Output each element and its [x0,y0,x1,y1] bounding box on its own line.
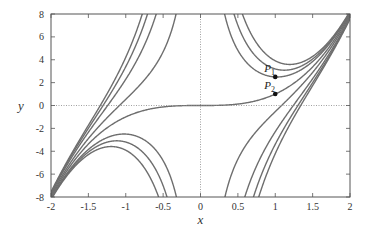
x-tick-label: -1.5 [80,201,96,212]
solution-curve [201,0,350,64]
y-axis-label: y [16,98,24,113]
x-tick-label: 0 [198,201,203,212]
x-tick-label: 1 [273,201,278,212]
solution-curve [51,0,200,192]
x-tick-label: -2 [47,201,55,212]
solution-curve [51,147,200,237]
y-tick-label: 8 [39,9,44,20]
y-tick-label: 0 [39,100,44,111]
y-tick-label: 2 [39,77,44,88]
solution-curves-chart: -2-1.5-1-0.500.511.52 -8-6-4-202468 x y … [0,0,366,237]
y-tick-label: -4 [36,146,44,157]
x-tick-label: -1 [122,201,130,212]
x-tick-label: 2 [348,201,353,212]
x-tick-label: 0.5 [232,201,245,212]
point-label-p2: P2 [263,79,275,94]
solution-curve [201,0,350,77]
y-tick-label: -2 [36,123,44,134]
y-tick-label: -6 [36,169,44,180]
y-tick-label: 6 [39,31,44,42]
y-tick-label: -8 [36,192,44,203]
x-tick-label: 1.5 [306,201,319,212]
x-axis-label: x [197,212,204,227]
x-tick-label: -0.5 [155,201,171,212]
marked-points: P1P2 [263,62,277,96]
x-tick-labels: -2-1.5-1-0.500.511.52 [47,201,353,212]
y-tick-labels: -8-6-4-202468 [36,9,44,203]
y-tick-label: 4 [39,54,44,65]
